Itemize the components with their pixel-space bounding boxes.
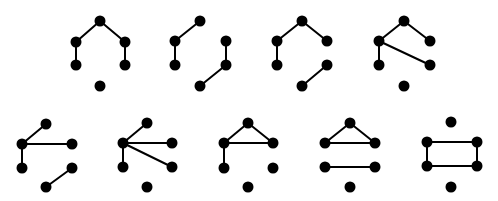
vertex-right-lower <box>425 60 436 71</box>
vertex-left-upper <box>272 36 283 47</box>
vertex-right-upper <box>425 36 436 47</box>
vertex-right-upper <box>370 138 381 149</box>
vertex-right-lower <box>370 162 381 173</box>
vertex-left-upper <box>17 139 28 150</box>
vertex-left-upper <box>118 138 129 149</box>
vertex-right-lower <box>221 60 232 71</box>
vertex-top <box>95 16 106 27</box>
vertex-left-upper <box>374 36 385 47</box>
vertex-left-upper <box>422 137 433 148</box>
vertex-top <box>297 16 308 27</box>
vertex-left-lower <box>17 163 28 174</box>
vertex-bottom <box>399 81 410 92</box>
vertex-left-lower <box>71 60 82 71</box>
vertex-right-upper <box>268 138 279 149</box>
vertex-bottom <box>446 182 457 193</box>
vertex-right-upper <box>120 37 131 48</box>
vertex-right-lower <box>322 60 333 71</box>
vertex-top <box>345 118 356 129</box>
vertex-right-lower <box>67 163 78 174</box>
vertex-left-lower <box>219 163 230 174</box>
vertex-left-upper <box>71 37 82 48</box>
vertex-bottom <box>297 81 308 92</box>
vertex-bottom <box>195 81 206 92</box>
vertex-left-lower <box>422 161 433 172</box>
vertex-right-upper <box>472 137 483 148</box>
vertex-bottom <box>41 182 52 193</box>
vertex-left-lower <box>374 60 385 71</box>
vertex-top <box>399 16 410 27</box>
vertex-right-lower <box>268 163 279 174</box>
vertex-right-lower <box>120 60 131 71</box>
vertex-left-upper <box>170 36 181 47</box>
vertex-bottom <box>243 182 254 193</box>
vertex-right-upper <box>67 139 78 150</box>
vertex-top <box>41 119 52 130</box>
vertex-bottom <box>142 182 153 193</box>
vertex-right-lower <box>167 162 178 173</box>
vertex-left-lower <box>272 60 283 71</box>
vertex-top <box>243 118 254 129</box>
vertex-left-lower <box>170 60 181 71</box>
vertex-right-upper <box>167 138 178 149</box>
vertex-top <box>195 16 206 27</box>
vertex-left-lower <box>118 162 129 173</box>
vertex-left-lower <box>320 162 331 173</box>
graph-figure <box>0 0 498 201</box>
vertex-left-upper <box>320 138 331 149</box>
vertex-right-upper <box>221 36 232 47</box>
vertex-top <box>142 118 153 129</box>
vertex-right-lower <box>472 161 483 172</box>
vertex-bottom <box>95 81 106 92</box>
vertex-bottom <box>345 182 356 193</box>
vertex-top <box>446 117 457 128</box>
vertex-left-upper <box>219 138 230 149</box>
vertex-right-upper <box>322 36 333 47</box>
